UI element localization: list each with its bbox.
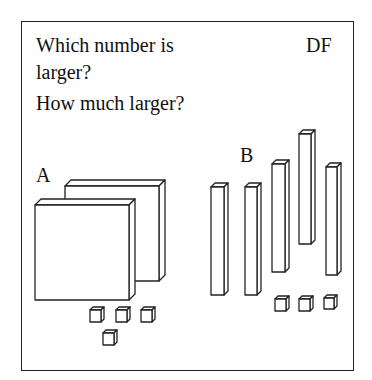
unit-cube <box>324 295 337 309</box>
rod-block <box>211 183 228 295</box>
rod-block <box>299 130 315 244</box>
flat-block-front <box>35 199 135 300</box>
unit-cube <box>275 296 289 311</box>
rod-block <box>326 163 341 275</box>
base-ten-blocks-diagram <box>0 0 372 380</box>
unit-cube <box>103 330 117 345</box>
rod-block <box>245 183 261 295</box>
unit-cube <box>90 307 104 322</box>
rod-block <box>272 160 289 272</box>
unit-cube <box>116 307 130 322</box>
unit-cube <box>299 296 313 311</box>
unit-cube <box>141 307 155 322</box>
